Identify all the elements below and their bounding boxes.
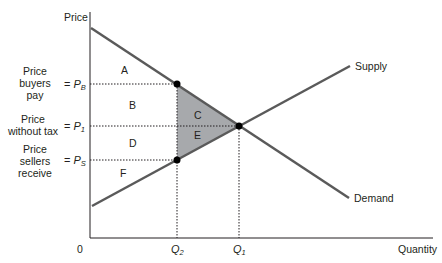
region-b-label: B [129, 99, 136, 111]
y-axis-label: Price [64, 11, 88, 23]
p1-symbol: = P1 [64, 120, 85, 134]
region-f-label: F [120, 167, 126, 179]
buyer-price-point [174, 81, 181, 88]
equilibrium-point [236, 123, 243, 130]
deadweight-loss-area [177, 84, 239, 160]
sellers-price-description: Price sellers receive [0, 143, 70, 179]
supply-label: Supply [355, 60, 387, 72]
x-axis-label: Quantity [398, 243, 437, 255]
demand-curve [91, 28, 349, 198]
region-d-label: D [129, 137, 137, 149]
pb-symbol: = PB [64, 78, 86, 92]
region-e-label: E [194, 129, 201, 141]
buyers-price-description: Price buyers pay [0, 65, 70, 101]
seller-price-point [174, 157, 181, 164]
ps-symbol: = PS [64, 154, 86, 168]
demand-label: Demand [354, 192, 394, 204]
q1-label: Q1 [233, 243, 246, 257]
region-a-label: A [121, 64, 128, 76]
region-c-label: C [194, 109, 202, 121]
supply-curve [92, 66, 350, 206]
q2-label: Q2 [171, 243, 184, 257]
origin-label: 0 [77, 243, 83, 255]
no-tax-price-description: Price without tax [0, 113, 68, 137]
